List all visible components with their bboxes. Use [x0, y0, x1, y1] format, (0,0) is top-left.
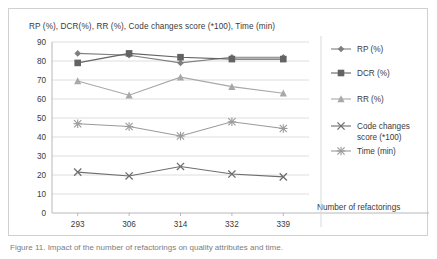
y-axis-tick-label: 50 — [37, 114, 47, 123]
data-point-marker-triangle — [177, 73, 184, 80]
data-point-marker-asterisk — [337, 147, 345, 155]
x-axis-tick-label: 339 — [276, 220, 290, 229]
y-axis-tick-label: 90 — [37, 38, 47, 47]
data-point-marker-asterisk — [176, 132, 184, 140]
data-point-marker-asterisk — [125, 122, 133, 130]
y-axis-tick-label: 40 — [37, 133, 47, 142]
data-point-marker-square — [126, 50, 133, 57]
figure-container: RP (%), DCR(%), RR (%), Code changes sco… — [0, 0, 437, 259]
x-axis-tick-label: 314 — [174, 220, 188, 229]
chart-plot-area: 0102030405060708090293306314332339Number… — [9, 9, 429, 237]
y-axis-tick-label: 30 — [37, 152, 47, 161]
data-point-marker-square — [338, 70, 345, 77]
y-axis-tick-label: 60 — [37, 95, 47, 104]
data-point-marker-asterisk — [279, 124, 287, 132]
data-point-marker-triangle — [74, 77, 81, 84]
data-point-marker-square — [74, 60, 81, 67]
legend-label: RR (%) — [357, 95, 384, 104]
data-point-marker-asterisk — [74, 120, 82, 128]
x-axis-tick-label: 293 — [71, 220, 85, 229]
data-point-marker-diamond — [338, 46, 345, 53]
y-axis-tick-label: 80 — [37, 57, 47, 66]
chart-frame: RP (%), DCR(%), RR (%), Code changes sco… — [8, 8, 428, 236]
legend-label: RP (%) — [357, 45, 384, 54]
y-axis-tick-label: 0 — [41, 209, 46, 218]
figure-caption: Figure 11. Impact of the number of refac… — [10, 243, 430, 257]
data-point-marker-square — [177, 54, 184, 61]
x-axis-title: Number of refactorings — [317, 203, 400, 212]
data-point-marker-diamond — [74, 50, 81, 57]
data-point-marker-square — [280, 56, 287, 63]
y-axis-tick-label: 20 — [37, 171, 47, 180]
y-axis-tick-label: 10 — [37, 190, 47, 199]
legend-label: DCR (%) — [357, 69, 390, 78]
legend-label: Time (min) — [357, 147, 396, 156]
legend-label: Code changes — [357, 122, 410, 131]
data-point-marker-asterisk — [228, 118, 236, 126]
x-axis-tick-label: 306 — [122, 220, 136, 229]
y-axis-tick-label: 70 — [37, 76, 47, 85]
data-point-marker-square — [229, 56, 236, 63]
x-axis-tick-label: 332 — [225, 220, 239, 229]
legend-label: score (*100) — [357, 133, 402, 142]
